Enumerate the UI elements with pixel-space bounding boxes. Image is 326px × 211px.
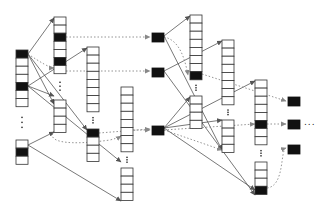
cell (255, 96, 267, 104)
cell (222, 48, 234, 56)
cell (16, 91, 28, 99)
column-D (121, 87, 133, 200)
edge-solid (164, 81, 255, 128)
filled-cell (255, 186, 267, 194)
cell (255, 170, 267, 178)
cell (54, 108, 66, 116)
cell (87, 88, 99, 96)
cell (222, 128, 234, 136)
cell (121, 136, 133, 144)
cell (190, 39, 202, 47)
ellipsis-dot (92, 120, 93, 121)
cell (121, 128, 133, 136)
hierarchy-diagram: ... (0, 0, 326, 211)
continuation-ellipsis: ... (304, 117, 316, 127)
filled-cell (255, 121, 267, 129)
cell (54, 25, 66, 33)
cell (87, 47, 99, 55)
cell (54, 66, 66, 74)
cell (190, 23, 202, 31)
cell (87, 79, 99, 87)
ellipsis-dot (260, 153, 261, 154)
cell (222, 81, 234, 89)
cell (222, 72, 234, 80)
edge-solid (28, 18, 54, 54)
cell (54, 41, 66, 49)
level2-node (152, 68, 164, 77)
column-G (222, 40, 234, 152)
ellipsis-dot (59, 86, 60, 87)
cell (255, 129, 267, 137)
level2-node (152, 33, 164, 42)
cell (121, 192, 133, 200)
cell (190, 15, 202, 23)
ellipsis-dot (92, 122, 93, 123)
cell (87, 153, 99, 161)
cell (121, 144, 133, 152)
cell (121, 119, 133, 127)
ellipsis-dot (126, 157, 127, 158)
cell (16, 99, 28, 107)
ellipsis-dot (126, 159, 127, 160)
ellipsis-dot (260, 150, 261, 151)
cell (16, 74, 28, 82)
cell (54, 100, 66, 108)
cell (121, 103, 133, 111)
cell (190, 31, 202, 39)
edge-solid (164, 128, 255, 190)
edge-solid (28, 145, 121, 201)
edge-solid (164, 16, 190, 36)
column-C (87, 47, 99, 161)
ellipsis-dot (227, 109, 228, 110)
cell (255, 178, 267, 186)
cell (222, 120, 234, 128)
edge-solid (28, 86, 54, 96)
cell (222, 40, 234, 48)
ellipsis-dot (21, 127, 22, 128)
cell (222, 97, 234, 105)
ellipsis-dot (227, 112, 228, 113)
ellipsis-dot (227, 114, 228, 115)
filled-cell (16, 82, 28, 90)
cell (87, 104, 99, 112)
cell (190, 64, 202, 72)
column-H (255, 80, 267, 194)
level3-node (288, 97, 300, 106)
cell (190, 120, 202, 128)
cell (54, 124, 66, 132)
cell (121, 168, 133, 176)
cell (255, 80, 267, 88)
cell (87, 71, 99, 79)
cell (222, 89, 234, 97)
edge-dotted (267, 148, 286, 188)
cell (121, 87, 133, 95)
edge-solid (28, 132, 54, 145)
ellipsis-dot (92, 117, 93, 118)
ellipsis-dot (21, 117, 22, 118)
edge-dotted (202, 74, 286, 101)
cell (190, 47, 202, 55)
column-B (54, 17, 66, 132)
column-F (190, 15, 202, 128)
edge-solid (28, 86, 121, 162)
cell (222, 136, 234, 144)
ellipsis-dot (195, 90, 196, 91)
cell (121, 95, 133, 103)
cell (54, 49, 66, 57)
edges-layer (28, 16, 286, 201)
edge-solid (164, 97, 190, 128)
cell (255, 162, 267, 170)
filled-cell (87, 129, 99, 137)
cell (121, 184, 133, 192)
cell (16, 156, 28, 164)
level3-node (288, 145, 300, 154)
filled-cell (54, 33, 66, 41)
column-A (16, 50, 28, 164)
cell (16, 140, 28, 148)
cell (87, 145, 99, 153)
ellipsis-dot (59, 82, 60, 83)
cell (190, 104, 202, 112)
filled-cell (16, 50, 28, 58)
cell (190, 96, 202, 104)
ellipsis-dot (21, 122, 22, 123)
